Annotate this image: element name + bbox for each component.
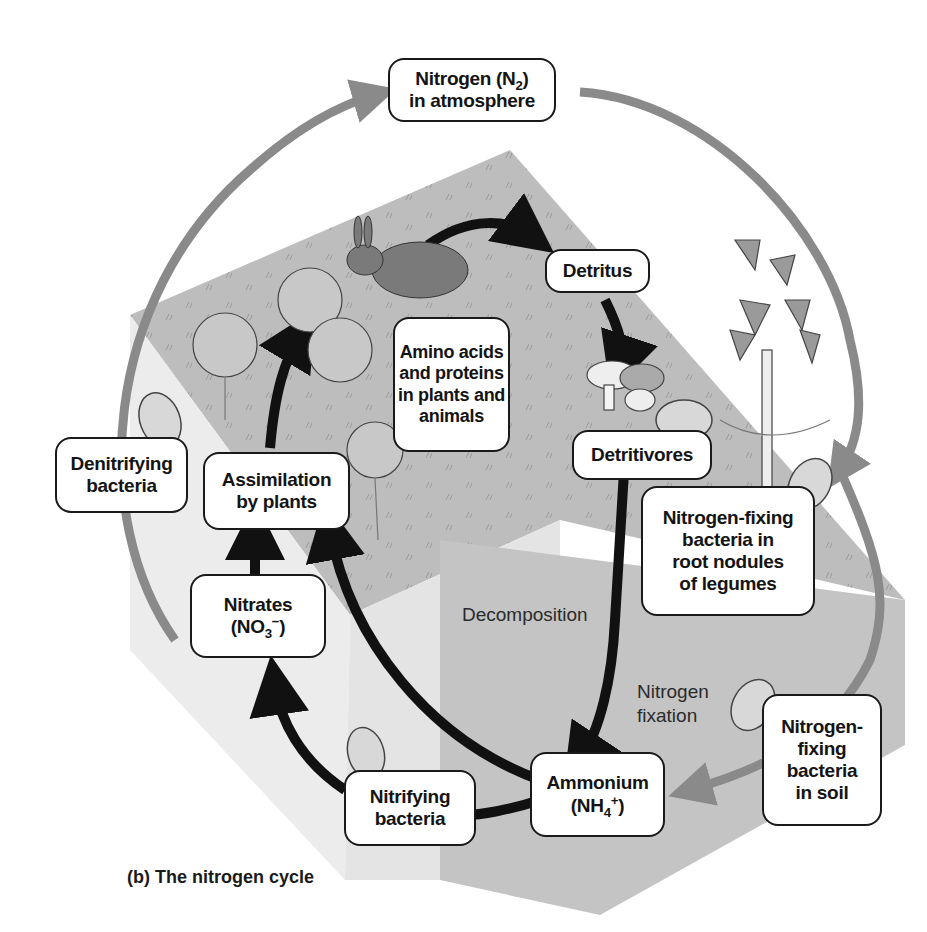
node-ammonium: Ammonium (NH4+) (530, 752, 665, 837)
nitrates-formula: (NO3−) (224, 616, 292, 638)
node-nitrates: Nitrates (NO3−) (190, 574, 326, 658)
node-atmosphere-line2: in atmosphere (409, 90, 535, 112)
label-nitrogen-fixation: Nitrogen fixation (637, 680, 709, 728)
node-nitrifying-bacteria: Nitrifying bacteria (344, 770, 476, 846)
node-atmosphere-line1: Nitrogen (N2) (409, 68, 535, 90)
node-soil-fixing-bacteria: Nitrogen- fixing bacteria in soil (762, 694, 882, 826)
node-detritus: Detritus (545, 249, 650, 293)
node-denitrifying-bacteria: Denitrifying bacteria (55, 437, 188, 513)
node-detritivores: Detritivores (572, 430, 712, 480)
node-nitrogen-atmosphere: Nitrogen (N2) in atmosphere (388, 58, 556, 122)
ammonium-formula: (NH4+) (546, 795, 648, 817)
node-root-nodules: Nitrogen-fixing bacteria in root nodules… (641, 486, 815, 616)
node-assimilation-by-plants: Assimilation by plants (203, 452, 350, 530)
figure-caption: (b) The nitrogen cycle (127, 867, 314, 888)
label-decomposition: Decomposition (462, 603, 588, 627)
node-amino-acids: Amino acids and proteins in plants and a… (393, 317, 510, 452)
